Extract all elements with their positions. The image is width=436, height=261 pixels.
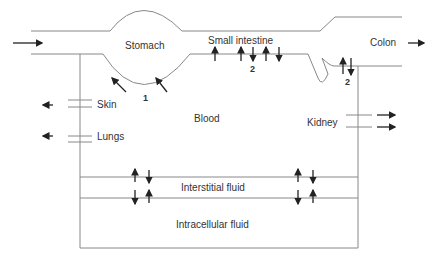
gi-tract-outline bbox=[31, 11, 402, 85]
label-intracellular-fluid: Intracellular fluid bbox=[176, 219, 249, 230]
marker-1: 1 bbox=[143, 93, 148, 103]
label-small-intestine: Small intestine bbox=[208, 35, 273, 46]
label-interstitial-fluid: Interstitial fluid bbox=[181, 182, 245, 193]
marker-2-colon: 2 bbox=[345, 77, 350, 87]
label-stomach: Stomach bbox=[125, 40, 164, 51]
label-kidney: Kidney bbox=[307, 117, 338, 128]
marker-2-intestine: 2 bbox=[250, 64, 255, 74]
label-colon: Colon bbox=[370, 37, 396, 48]
label-blood: Blood bbox=[194, 113, 220, 124]
label-skin: Skin bbox=[97, 99, 116, 110]
fluid-compartment-diagram: Stomach Small intestine Colon Blood Skin… bbox=[0, 0, 436, 261]
label-lungs: Lungs bbox=[97, 131, 124, 142]
